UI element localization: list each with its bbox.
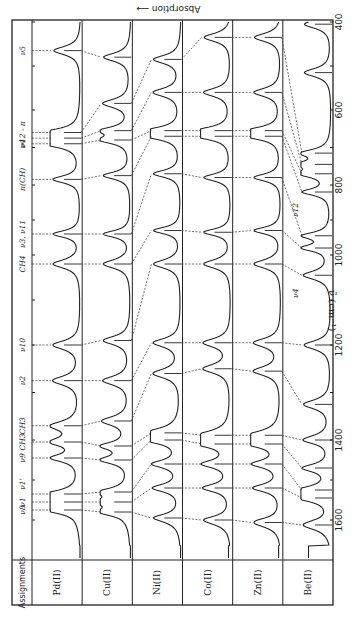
correlation-line	[182, 231, 202, 233]
tick-label: 1000	[334, 243, 344, 266]
correlation-line	[232, 520, 252, 523]
correlation-line	[282, 488, 302, 498]
correlation-line	[131, 59, 151, 103]
correlation-line	[182, 440, 202, 444]
correlation-line	[282, 444, 302, 468]
tick-label: 1400	[334, 428, 344, 451]
correlation-line	[282, 343, 302, 345]
assignment-label: ν1'	[18, 478, 27, 489]
correlation-line	[81, 421, 101, 426]
tick-label: 400	[334, 13, 344, 30]
correlation-line	[81, 131, 101, 139]
correlation-line	[131, 92, 151, 130]
spectrum-cuii	[100, 22, 131, 558]
correlation-line	[282, 37, 302, 153]
assignment-label: ν12 - π	[18, 120, 27, 147]
correlation-line	[282, 435, 302, 440]
assignment-label: ν1	[18, 497, 27, 506]
correlation-line	[282, 231, 302, 249]
assignment-label: CH4	[18, 255, 27, 272]
assignment-label: ν9	[18, 453, 27, 463]
correlation-line	[282, 523, 302, 526]
spectrum-beii: ν4ν12	[291, 22, 332, 558]
correlation-line	[81, 458, 101, 460]
panel-label-beii: Be(II)	[303, 569, 313, 595]
assignments-header: Assignments	[18, 557, 27, 608]
assignment-label: ν10	[18, 338, 27, 352]
correlation-line	[131, 374, 151, 422]
assignment-label: CH3	[18, 417, 27, 434]
correlation-line	[131, 488, 151, 502]
correlation-line	[131, 264, 151, 341]
chart-frame	[12, 20, 333, 605]
panel-label-niii: Ni(II)	[152, 570, 162, 595]
correlation-line	[81, 176, 101, 180]
correlation-line	[81, 442, 101, 446]
correlation-line	[232, 369, 252, 371]
assignment-label: CH3	[18, 433, 27, 450]
correlation-line	[282, 136, 302, 192]
panel-label-coii: Co(II)	[203, 569, 213, 595]
correlation-line	[131, 512, 151, 518]
correlation-line	[81, 103, 101, 132]
correlation-line	[282, 464, 302, 490]
spectrum-niii	[150, 22, 181, 558]
correlation-line	[182, 433, 202, 435]
assignment-label: ν3, ν11	[18, 220, 27, 248]
correlation-line	[182, 518, 202, 520]
peak-label: ν4	[291, 288, 300, 298]
correlation-line	[81, 510, 101, 512]
tick-label: 1600	[334, 508, 344, 531]
correlation-line	[81, 492, 101, 494]
correlation-line	[182, 174, 202, 178]
panel-label-znii: Zn(II)	[253, 569, 263, 595]
spectrum-coii	[201, 22, 232, 558]
correlation-line	[81, 51, 101, 58]
correlation-line	[182, 37, 202, 59]
correlation-line	[131, 174, 151, 234]
correlation-line	[131, 343, 151, 381]
correlation-line	[182, 369, 202, 374]
correlation-line	[282, 264, 302, 275]
peak-label: ν12	[291, 203, 300, 217]
assignment-label: ν5	[18, 46, 27, 56]
spectrum-znii	[251, 22, 282, 558]
spectrum-pdii	[50, 22, 81, 558]
tick-label: 1200	[334, 333, 344, 356]
tick-label: 600	[334, 101, 344, 118]
tick-label: 800	[334, 176, 344, 193]
correlation-line	[232, 231, 252, 233]
correlation-line	[282, 92, 302, 164]
assignment-label: ν2	[18, 376, 27, 386]
correlation-line	[131, 136, 151, 175]
correlation-line	[131, 231, 151, 265]
panel-label-cuii: Cu(II)	[102, 569, 112, 596]
panel-label-pdii: Pd(II)	[52, 570, 62, 596]
correlation-line	[81, 341, 101, 346]
correlation-line	[81, 140, 101, 144]
correlation-line	[131, 433, 151, 446]
ir-spectra-chart: Pd(II)Cu(II)Ni(II)Co(II)Zn(II)Be(II)Assi…	[0, 0, 362, 635]
assignment-label: π(CH)	[18, 168, 27, 192]
correlation-line	[282, 371, 302, 404]
correlation-line	[282, 131, 302, 174]
correlation-line	[131, 464, 151, 492]
correlation-line	[131, 440, 151, 460]
correlation-line	[131, 131, 151, 140]
